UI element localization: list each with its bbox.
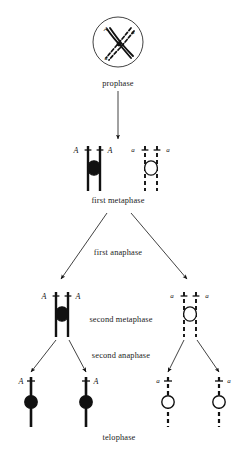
prophase-chromatid-A-2 — [110, 28, 133, 56]
first-metaphase-label-A-right: A — [108, 146, 113, 155]
second-metaphase-label-A-left: A — [42, 292, 47, 301]
second-metaphase-dashed-pair-centromere — [184, 307, 197, 321]
first-metaphase-label-a-left: a — [131, 146, 135, 154]
second-metaphase-solid-pair-centromere — [56, 307, 69, 321]
second-metaphase-label-a-left: a — [170, 292, 174, 300]
arrow-second-anaphase-left-1 — [31, 340, 56, 372]
telophase-cell-1-centromere — [25, 396, 37, 408]
arrow-second-anaphase-left-2 — [69, 340, 86, 372]
arrow-first-anaphase-left — [61, 213, 107, 279]
telophase-cell-4-label: a — [227, 377, 231, 385]
stage-label-first-anaphase: first anaphase — [94, 248, 142, 257]
stage-label-first-metaphase: first metaphase — [91, 196, 144, 205]
first-metaphase-label-A-left: A — [74, 146, 79, 155]
telophase-cell-3-centromere — [162, 396, 174, 408]
first-metaphase-dashed-pair-centromere — [145, 161, 158, 175]
prophase-chiasma-point — [117, 42, 122, 47]
telophase-cell-3-label: a — [156, 377, 160, 385]
stage-label-second-anaphase: second anaphase — [92, 351, 150, 360]
second-metaphase-label-a-right: a — [205, 292, 209, 300]
stage-label-second-metaphase: second metaphase — [89, 315, 152, 324]
prophase-allele-label-A-top: A — [104, 25, 108, 33]
second-metaphase-label-A-right: A — [76, 292, 81, 301]
stage-label-prophase: prophase — [102, 79, 133, 88]
arrow-first-anaphase-right — [131, 213, 187, 279]
telophase-cell-2-centromere — [80, 396, 92, 408]
telophase-cell-1-label: A — [19, 377, 24, 386]
prophase-allele-label-a-bottom: a — [104, 54, 107, 61]
first-metaphase-solid-pair-centromere — [88, 161, 101, 175]
meiosis-diagram: prophase first metaphase first anaphase … — [0, 0, 237, 454]
prophase-allele-label-a-top: a — [131, 28, 134, 35]
stage-label-telophase: telophase — [103, 433, 136, 442]
telophase-cell-4-centromere — [213, 396, 225, 408]
first-metaphase-label-a-right: a — [166, 146, 170, 154]
arrow-second-anaphase-right-2 — [197, 340, 219, 372]
diagram-canvas — [0, 0, 237, 454]
telophase-cell-2-label: A — [94, 377, 99, 386]
arrow-second-anaphase-right-1 — [168, 340, 184, 372]
